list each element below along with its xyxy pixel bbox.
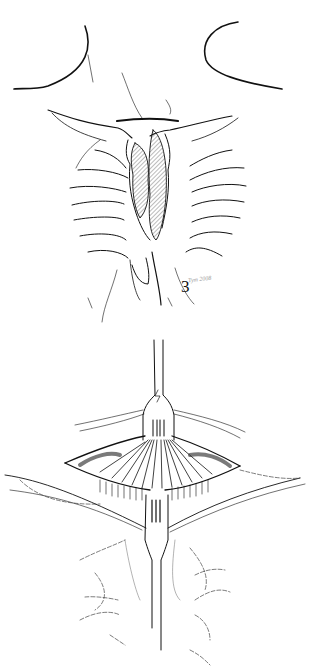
chest-wall-illustration <box>0 0 316 335</box>
figure-label-3: 3 <box>181 277 190 297</box>
figure-3: Tym 2008 3 <box>0 0 316 335</box>
figure-4: : tym 98 4 <box>0 335 316 668</box>
neck-incision-illustration <box>0 335 316 668</box>
